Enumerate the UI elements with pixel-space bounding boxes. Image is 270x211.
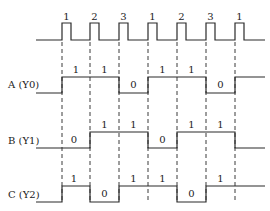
signal-label: B (Y1) <box>8 135 39 146</box>
logic-level-value: 1 <box>159 64 165 75</box>
clock-pulse-label: 1 <box>149 11 155 22</box>
signal-waveform <box>36 186 265 202</box>
logic-level-value: 1 <box>73 64 79 75</box>
signal-waveform <box>36 77 265 93</box>
logic-level-value: 0 <box>71 134 77 145</box>
clock-pulse-label: 1 <box>236 11 242 22</box>
logic-level-value: 1 <box>188 64 194 75</box>
logic-level-value: 1 <box>101 64 107 75</box>
logic-level-value: 1 <box>217 119 223 130</box>
logic-level-value: 1 <box>71 173 77 184</box>
logic-level-value: 1 <box>130 173 136 184</box>
clock-pulse-label: 2 <box>91 11 97 22</box>
signal-label: A (Y0) <box>7 79 39 90</box>
logic-level-value: 0 <box>101 188 107 199</box>
clock-pulse-label: 3 <box>120 11 126 22</box>
clock-pulse-label: 1 <box>63 11 69 22</box>
clock-waveform <box>36 23 265 40</box>
clock-signal: 1231231 <box>36 11 265 40</box>
logic-level-value: 0 <box>217 79 223 90</box>
logic-level-value: 1 <box>188 119 194 130</box>
clock-pulse-label: 3 <box>207 11 213 22</box>
logic-level-value: 1 <box>101 119 107 130</box>
signal-2: C (Y2)101101 <box>8 173 265 202</box>
signal-label: C (Y2) <box>8 189 40 200</box>
logic-level-value: 1 <box>130 119 136 130</box>
logic-level-value: 1 <box>159 173 165 184</box>
logic-level-value: 0 <box>130 79 136 90</box>
logic-level-value: 0 <box>159 134 165 145</box>
clock-edge-guide-lines <box>62 42 235 200</box>
signal-0: A (Y0)110110 <box>7 64 265 93</box>
clock-pulse-label: 2 <box>178 11 184 22</box>
timing-diagram: 1231231 A (Y0)110110B (Y1)011011C (Y2)10… <box>0 0 270 211</box>
signal-1: B (Y1)011011 <box>8 119 265 148</box>
logic-level-value: 1 <box>217 173 223 184</box>
output-signals: A (Y0)110110B (Y1)011011C (Y2)101101 <box>7 64 265 202</box>
logic-level-value: 0 <box>188 188 194 199</box>
